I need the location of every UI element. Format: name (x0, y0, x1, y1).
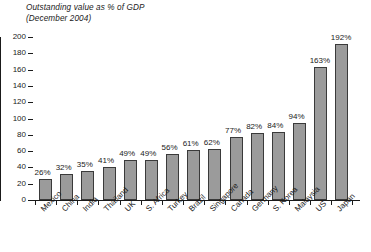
x-axis-tick (247, 201, 248, 205)
bar-value-label: 35% (77, 160, 93, 169)
plot-area: 26%32%35%41%49%49%56%61%62%77%82%84%94%1… (33, 37, 360, 200)
x-axis-tick (162, 201, 163, 205)
x-axis-category-label: US (314, 199, 328, 213)
bar-value-label: 62% (204, 138, 220, 147)
bar-value-label: 49% (140, 149, 156, 158)
bar-value-label: 49% (119, 149, 135, 158)
bar-value-label: 84% (267, 121, 283, 130)
bar-value-label: 41% (98, 156, 114, 165)
y-axis-tick-label: 200 (0, 32, 26, 41)
bar-value-label: 56% (162, 143, 178, 152)
y-axis-tick-label: 0 (0, 195, 26, 204)
y-axis-tick-label: 180 (0, 48, 26, 57)
bar (187, 150, 200, 200)
x-axis-tick (268, 201, 269, 205)
x-axis-tick (331, 201, 332, 205)
y-axis-tick-label: 80 (0, 130, 26, 139)
x-axis-tick (289, 201, 290, 205)
bar-value-label: 32% (56, 163, 72, 172)
bar (208, 149, 221, 200)
x-axis-tick (35, 201, 36, 205)
bar (335, 44, 348, 200)
chart-title: Outstanding value as % of GDP (26, 3, 145, 14)
bar-value-label: 94% (289, 112, 305, 121)
bar-value-label: 163% (310, 56, 330, 65)
y-axis-tick-label: 100 (0, 114, 26, 123)
bar-chart-figure: Outstanding value as % of GDP (December … (0, 0, 371, 252)
y-axis-tick-label: 20 (0, 179, 26, 188)
y-axis-tick-label: 120 (0, 97, 26, 106)
y-axis-tick-label: 160 (0, 65, 26, 74)
bar-value-label: 82% (246, 122, 262, 131)
y-axis-tick-label: 140 (0, 81, 26, 90)
bar-value-label: 192% (331, 33, 351, 42)
y-axis-tick (28, 200, 33, 201)
x-axis-tick (141, 201, 142, 205)
chart-subtitle: (December 2004) (26, 14, 145, 25)
bar (314, 67, 327, 200)
x-axis-category-label: UK (123, 199, 137, 213)
bar-value-label: 77% (225, 126, 241, 135)
y-axis-tick-label: 40 (0, 162, 26, 171)
y-axis-tick-label: 60 (0, 146, 26, 155)
bar-value-label: 26% (35, 168, 51, 177)
chart-title-block: Outstanding value as % of GDP (December … (26, 3, 145, 24)
x-axis-tick (120, 201, 121, 205)
bar-value-label: 61% (183, 139, 199, 148)
